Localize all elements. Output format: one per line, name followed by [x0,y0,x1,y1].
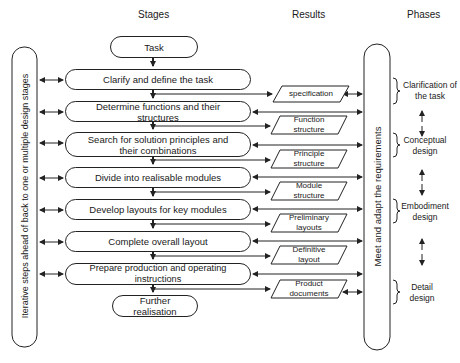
phase-embodiment: Embodiment design [400,201,450,223]
stage-complete-layout: Complete overall layout [65,231,251,252]
left-double-arrows [40,80,63,274]
phase-detail: Detail design [400,282,444,304]
result-preliminary-layouts: Preliminary layouts [274,214,344,232]
phase-braces [393,78,400,304]
right-bar-label: Meet and adapt the requirements [372,97,383,297]
stage-task: Task [110,36,198,58]
stage-determine-functions: Determine functions and their structures [65,101,251,122]
result-definitive-layout: Definitive layout [274,246,344,264]
phase-conceptual: Conceptual design [400,135,450,157]
header-results: Results [292,9,325,20]
result-module-structure: Module structure [274,182,344,200]
stage-divide-modules: Divide into realisable modules [65,167,251,188]
result-principle-structure: Principle structure [274,150,344,168]
result-function-structure: Function structure [274,116,344,134]
result-arrows [153,94,272,289]
header-phases: Phases [407,9,440,20]
stage-search-principles: Search for solution principles and their… [65,132,251,157]
result-product-documents: Product documents [274,280,344,298]
result-specification: specification [276,86,346,102]
stage-clarify: Clarify and define the task [65,69,251,90]
left-bar-label: Iterative steps ahead of back to one or … [20,46,30,346]
header-stages: Stages [138,9,169,20]
stage-further-realisation: Further realisation [112,295,198,317]
phase-clarification: Clarification of the task [400,80,460,102]
stage-develop-layouts: Develop layouts for key modules [65,199,251,220]
stage-prepare-instructions: Prepare production and operating instruc… [65,263,251,285]
